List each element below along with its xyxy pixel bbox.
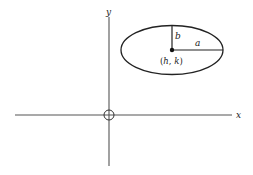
- label-a: a: [195, 38, 200, 48]
- ellipse-diagram: x y b a (h, k): [0, 0, 253, 175]
- center-point: [170, 48, 174, 52]
- x-axis-label: x: [236, 110, 241, 120]
- center-k: k: [174, 56, 179, 66]
- label-b: b: [175, 31, 181, 41]
- y-axis-label: y: [105, 7, 112, 17]
- center-label: (h, k): [160, 56, 183, 66]
- center-h: h: [163, 56, 168, 66]
